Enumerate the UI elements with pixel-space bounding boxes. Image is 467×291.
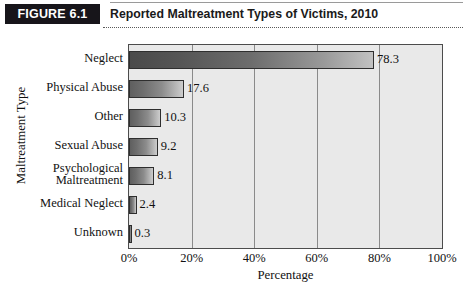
category-label-line: Neglect	[10, 52, 123, 65]
header-dotted-divider	[103, 27, 463, 28]
bar-row: 8.1	[129, 167, 442, 185]
bar-value-label: 8.1	[154, 167, 173, 185]
category-label: Neglect	[10, 52, 128, 65]
figure-header: FIGURE 6.1 Reported Maltreatment Types o…	[0, 0, 467, 30]
figure-number-badge: FIGURE 6.1	[5, 4, 100, 24]
bar-value-label: 2.4	[137, 196, 156, 214]
x-tick-label: 60%	[305, 251, 328, 266]
figure-panel: FIGURE 6.1 Reported Maltreatment Types o…	[0, 0, 467, 291]
bar	[129, 80, 184, 98]
bar	[129, 109, 161, 127]
y-axis-title: Maltreatment Type	[14, 66, 29, 206]
figure-title: Reported Maltreatment Types of Victims, …	[110, 4, 378, 24]
x-tick-label: 20%	[180, 251, 203, 266]
bar-value-label: 9.2	[158, 138, 177, 156]
bar	[129, 138, 158, 156]
bar-value-label: 10.3	[161, 109, 186, 127]
x-tick-label: 100%	[427, 251, 456, 266]
bar-row: 9.2	[129, 138, 442, 156]
bar	[129, 196, 137, 214]
x-tick-label: 40%	[243, 251, 266, 266]
x-tick-label: 0%	[121, 251, 138, 266]
x-axis-tick-labels: 0%20%40%60%80%100%	[128, 251, 443, 267]
chart-plot-area: 78.317.610.39.28.12.40.3	[128, 44, 443, 249]
category-label: Unknown	[10, 226, 128, 239]
bar	[129, 167, 154, 185]
bar-row: 2.4	[129, 196, 442, 214]
bar	[129, 51, 374, 69]
category-label-line: Unknown	[10, 226, 123, 239]
bar-row: 78.3	[129, 51, 442, 69]
bar-value-label: 0.3	[132, 225, 151, 243]
bar-value-label: 78.3	[374, 51, 399, 69]
bar-value-label: 17.6	[184, 80, 209, 98]
bar-row: 0.3	[129, 225, 442, 243]
bar-row: 17.6	[129, 80, 442, 98]
header-rule	[110, 2, 463, 3]
x-tick-label: 80%	[368, 251, 391, 266]
x-axis-title: Percentage	[128, 268, 443, 283]
bar-row: 10.3	[129, 109, 442, 127]
